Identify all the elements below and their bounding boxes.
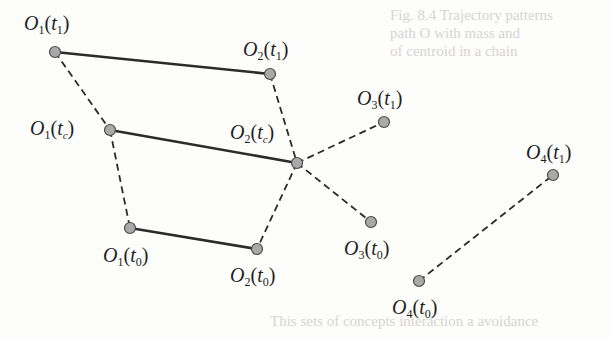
edge-dashed-O1_tc-O1_t0 <box>110 130 130 228</box>
node-label-O1_t1: O1(t1) <box>24 12 69 34</box>
edge-dashed-O4_t0-O4_t1 <box>419 175 553 281</box>
edge-dashed-O2_t1-O2_tc <box>270 74 297 163</box>
graph-svg <box>0 0 610 338</box>
node-O1_t0 <box>125 223 136 234</box>
trajectory-diagram: Fig. 8.4 Trajectory patterns path O with… <box>0 0 610 338</box>
node-label-O3_t0: O3(t0) <box>344 237 389 259</box>
node-O3_t0 <box>366 217 377 228</box>
node-label-O3_t1: O3(t1) <box>357 87 402 109</box>
node-O1_tc <box>105 125 116 136</box>
node-label-O2_tc: O2(tc) <box>230 121 274 143</box>
node-label-O1_tc: O1(tc) <box>30 117 74 139</box>
node-O4_t1 <box>548 170 559 181</box>
node-O4_t0 <box>414 276 425 287</box>
node-label-O2_t0: O2(t0) <box>230 264 275 286</box>
node-O1_t1 <box>50 47 61 58</box>
node-O3_t1 <box>379 117 390 128</box>
edge-dashed-O2_tc-O3_t1 <box>297 122 384 163</box>
node-O2_t0 <box>252 244 263 255</box>
node-label-O1_t0: O1(t0) <box>103 244 148 266</box>
edge-dashed-O2_tc-O2_t0 <box>257 163 297 249</box>
node-O2_tc <box>292 158 303 169</box>
edge-solid-O1_t0-O2_t0 <box>130 228 257 249</box>
node-label-O4_t0: O4(t0) <box>392 296 437 318</box>
node-O2_t1 <box>265 69 276 80</box>
edge-dashed-O2_tc-O3_t0 <box>297 163 371 222</box>
edge-solid-O1_t1-O2_t1 <box>55 52 270 74</box>
node-label-O2_t1: O2(t1) <box>243 38 288 60</box>
node-label-O4_t1: O4(t1) <box>526 141 571 163</box>
